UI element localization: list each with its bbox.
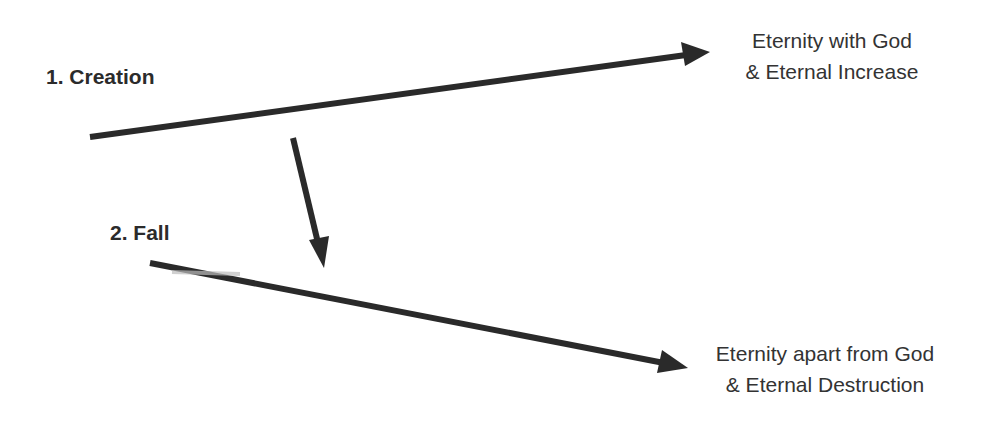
outcome-upper: Eternity with God & Eternal Increase xyxy=(702,25,962,87)
outcome-lower-line2: & Eternal Destruction xyxy=(695,369,955,400)
outcome-lower-line1: Eternity apart from God xyxy=(695,338,955,369)
arrowhead-icon xyxy=(657,350,688,373)
outcome-lower: Eternity apart from God & Eternal Destru… xyxy=(695,338,955,400)
fall-path-arrow xyxy=(150,263,688,373)
stage-label-fall: 2. Fall xyxy=(110,222,170,243)
stage-label-creation: 1. Creation xyxy=(46,66,155,87)
outcome-upper-line2: & Eternal Increase xyxy=(702,56,962,87)
fall-transition-arrow xyxy=(293,138,329,268)
outcome-upper-line1: Eternity with God xyxy=(702,25,962,56)
creation-path-arrow xyxy=(90,42,710,137)
arrowhead-icon xyxy=(309,236,329,268)
scan-smudge xyxy=(172,272,240,274)
